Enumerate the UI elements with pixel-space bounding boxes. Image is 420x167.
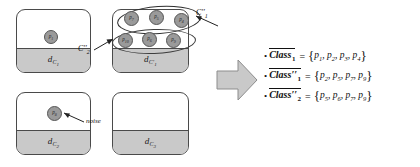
equation-class-index: 1 xyxy=(292,55,296,63)
equation-members: p2, p5, p7, p9 xyxy=(320,70,366,82)
data-point-p1: p1 xyxy=(44,30,58,44)
cluster-label-top-right: dC′1 xyxy=(144,54,157,68)
leader-line-noise xyxy=(60,110,86,124)
equation-class-base: Class xyxy=(269,69,291,80)
equation-equals: = xyxy=(299,51,305,62)
equation-bullet: • xyxy=(264,92,267,101)
cluster-box-bottom-right: dC3 xyxy=(112,92,189,155)
data-point-p6: p6 xyxy=(142,32,157,47)
figure-canvas: dC1 p1 dC′1 p7 p5 p4 p10 p6 p9 C xyxy=(0,0,420,167)
equation-row-class-dprime-1: • Class′′1 = { p2, p5, p7, p9 } xyxy=(264,68,372,84)
leader-line-lower xyxy=(92,36,116,52)
data-point-p4: p4 xyxy=(174,13,189,28)
data-point-p9: p9 xyxy=(166,33,181,48)
cluster-label-top-left: dC1 xyxy=(48,54,60,68)
equation-class-term: Class1 xyxy=(269,48,295,63)
equation-class-term: Class′′1 xyxy=(269,68,301,83)
equation-close-brace: } xyxy=(366,88,372,104)
equation-class-base: Class xyxy=(269,49,291,60)
cluster-label-bottom-right: dC3 xyxy=(145,136,157,150)
equation-class-prime: ′′ xyxy=(291,89,297,100)
block-arrow-icon xyxy=(216,58,258,102)
equation-list: • Class1 = { p1, p2, p3, p4 } • Class′′1… xyxy=(264,48,372,104)
group-label-lower: C′′2 xyxy=(78,44,90,55)
cluster-fill-bottom-right: dC3 xyxy=(113,130,188,154)
equation-class-base: Class xyxy=(269,89,291,100)
cluster-fill-bottom-left: dC2 xyxy=(17,130,90,154)
equation-close-brace: } xyxy=(361,48,367,64)
equation-row-class-dprime-2: • Class′′2 = { p5, p6, p7, p9 } xyxy=(264,88,372,104)
data-point-p10: p10 xyxy=(118,33,133,48)
equation-class-index: 1 xyxy=(298,75,302,83)
data-point-p5: p5 xyxy=(149,10,164,25)
group-label-upper: C′′1 xyxy=(196,8,208,19)
cluster-label-bottom-left: dC2 xyxy=(48,136,60,150)
equation-equals: = xyxy=(305,71,311,82)
equation-row-class1: • Class1 = { p1, p2, p3, p4 } xyxy=(264,48,372,64)
equation-class-index: 2 xyxy=(298,95,302,103)
equation-class-term: Class′′2 xyxy=(269,88,301,103)
equation-class-prime: ′′ xyxy=(291,69,297,80)
equation-members: p5, p6, p7, p9 xyxy=(320,90,366,102)
data-point-p7: p7 xyxy=(124,11,139,26)
equation-bullet: • xyxy=(264,72,267,81)
equation-close-brace: } xyxy=(366,68,372,84)
equation-members: p1, p2, p3, p4 xyxy=(314,50,360,62)
equation-bullet: • xyxy=(264,52,267,61)
noise-label: noise xyxy=(86,117,101,125)
equation-equals: = xyxy=(305,91,311,102)
